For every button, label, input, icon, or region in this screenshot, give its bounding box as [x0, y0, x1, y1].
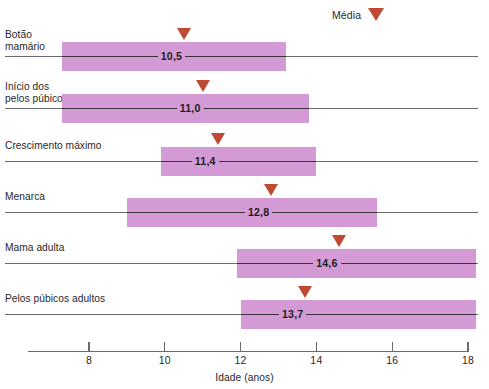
- mean-marker-triangle-icon: [298, 286, 312, 298]
- mean-value-label: 11,0: [177, 102, 204, 114]
- axis-tick: [88, 342, 89, 352]
- row-label: Mama adulta: [5, 242, 64, 254]
- mean-value-label: 13,7: [279, 308, 306, 320]
- chart-row: Início dos pelos púbicos11,0: [0, 80, 489, 130]
- mean-value-label: 11,4: [192, 155, 219, 167]
- axis-tick-label: 16: [386, 354, 398, 366]
- row-band-line: [237, 263, 476, 264]
- mean-marker-triangle-icon: [264, 184, 278, 196]
- axis-tick-label: 18: [462, 354, 474, 366]
- row-band-line: [241, 314, 476, 315]
- chart-row: Mama adulta14,6: [0, 235, 489, 285]
- axis-tick-label: 14: [310, 354, 322, 366]
- axis-tick-label: 8: [86, 354, 92, 366]
- mean-marker-triangle-icon: [211, 133, 225, 145]
- axis-tick: [164, 342, 165, 352]
- legend-label: Média: [332, 9, 361, 21]
- axis-tick: [240, 342, 241, 352]
- growth-milestones-chart: Média Botão mamário10,5Início dos pelos …: [0, 0, 489, 389]
- axis-tick-label: 12: [235, 354, 247, 366]
- row-label: Pelos púbicos adultos: [5, 293, 105, 305]
- mean-value-label: 14,6: [313, 257, 340, 269]
- mean-marker-triangle-icon: [196, 80, 210, 92]
- axis-title: Idade (anos): [0, 372, 489, 383]
- row-label: Crescimento máximo: [5, 140, 102, 152]
- axis-line: [28, 351, 469, 352]
- mean-marker-triangle-icon: [177, 28, 191, 40]
- axis-tick: [392, 342, 393, 352]
- axis-tick: [467, 342, 468, 352]
- row-label: Menarca: [5, 191, 45, 203]
- axis-tick: [316, 342, 317, 352]
- down-triangle-icon: [368, 8, 384, 21]
- chart-row: Menarca12,8: [0, 184, 489, 234]
- x-axis: 81012141618 Idade (anos): [0, 336, 489, 389]
- chart-row: Crescimento máximo11,4: [0, 133, 489, 183]
- mean-value-label: 10,5: [158, 50, 185, 62]
- row-label: Início dos pelos púbicos: [5, 81, 68, 104]
- row-label: Botão mamário: [5, 29, 45, 52]
- chart-row: Botão mamário10,5: [0, 28, 489, 78]
- chart-row: Pelos púbicos adultos13,7: [0, 286, 489, 336]
- axis-tick-label: 10: [159, 354, 171, 366]
- legend: Média: [332, 8, 384, 21]
- row-band-line: [161, 161, 316, 162]
- mean-value-label: 12,8: [245, 206, 272, 218]
- mean-marker-triangle-icon: [332, 235, 346, 247]
